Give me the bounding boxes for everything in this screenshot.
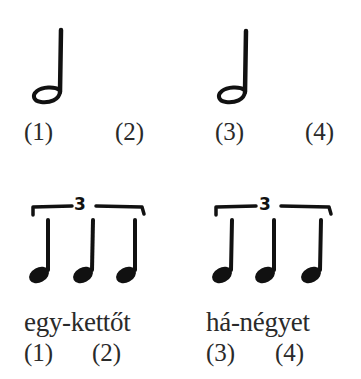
quarter-note-icon	[252, 218, 282, 286]
triplet-group-2: 3 há-négyet (3) (4)	[0, 0, 361, 379]
rhythm-syllables: há-négyet	[206, 309, 310, 336]
quarter-note-icon	[298, 218, 328, 286]
quarter-note-icon	[209, 218, 239, 286]
beat-label-4: (4)	[275, 340, 304, 365]
beat-label-3: (3)	[206, 340, 235, 365]
tuplet-bracket-icon	[213, 200, 338, 220]
tuplet-number: 3	[259, 196, 271, 213]
